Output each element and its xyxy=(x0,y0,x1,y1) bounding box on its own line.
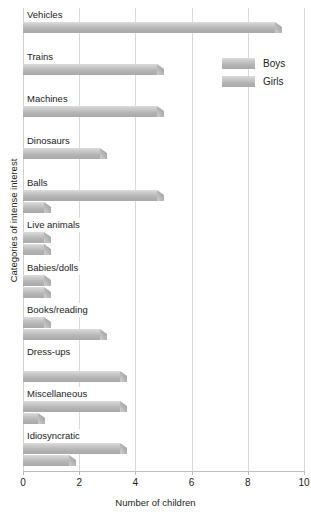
bar-slot-boys xyxy=(23,106,304,117)
chart-row: Idiosyncratic xyxy=(23,429,304,471)
legend-item-boys: Boys xyxy=(222,58,285,69)
bar-tip xyxy=(44,317,51,328)
category-label: Dress-ups xyxy=(25,345,73,359)
bar-boys xyxy=(23,401,127,412)
bar-slot-boys xyxy=(23,148,304,159)
bar-boys xyxy=(23,106,164,117)
x-tick-0 xyxy=(23,471,24,475)
bar-tip xyxy=(275,22,282,33)
x-tick-label-6: 6 xyxy=(189,477,195,488)
chart-row: Machines xyxy=(23,92,304,134)
bar-girls xyxy=(23,202,51,213)
bar-girls xyxy=(23,287,51,298)
bar-slot-girls xyxy=(23,244,304,255)
bar-tip xyxy=(120,401,127,412)
bar-tip xyxy=(100,329,107,340)
legend-label: Boys xyxy=(263,58,285,69)
bar-tip xyxy=(157,106,164,117)
bar-group xyxy=(23,148,304,172)
chart-row: Books/reading xyxy=(23,303,304,345)
bar-tip xyxy=(69,455,76,466)
x-tick-label-0: 0 xyxy=(20,477,26,488)
bar-group xyxy=(23,190,304,214)
bar-girls xyxy=(23,413,45,424)
category-label: Balls xyxy=(25,176,51,190)
category-label: Trains xyxy=(25,50,56,64)
bar-slot-girls xyxy=(23,455,304,466)
bar-boys xyxy=(23,148,107,159)
x-tick-4 xyxy=(135,471,136,475)
bar-tip xyxy=(44,287,51,298)
y-axis-label: Categories of intense interest xyxy=(8,126,19,316)
category-label: Babies/dolls xyxy=(25,261,81,275)
bar-slot-girls xyxy=(23,413,304,424)
bar-group xyxy=(23,22,304,46)
bar-boys xyxy=(23,232,51,243)
bar-group xyxy=(23,106,304,130)
bar-slot-boys xyxy=(23,275,304,286)
bar-tip xyxy=(44,202,51,213)
bar-slot-boys xyxy=(23,232,304,243)
bar-slot-boys xyxy=(23,317,304,328)
bar-slot-boys xyxy=(23,190,304,201)
bar-girls xyxy=(23,329,107,340)
bar-tip xyxy=(120,443,127,454)
bar-group xyxy=(23,359,304,383)
x-tick-8 xyxy=(248,471,249,475)
bar-slot-boys xyxy=(23,443,304,454)
legend-swatch-boys xyxy=(222,58,255,69)
bar-tip xyxy=(44,244,51,255)
bar-boys xyxy=(23,190,164,201)
bar-slot-girls xyxy=(23,287,304,298)
bar-tip xyxy=(120,371,127,382)
bar-tip xyxy=(44,275,51,286)
bar-group xyxy=(23,232,304,256)
bar-boys xyxy=(23,317,51,328)
x-tick-label-10: 10 xyxy=(298,477,309,488)
bar-tip xyxy=(100,148,107,159)
category-label: Books/reading xyxy=(25,303,91,317)
bar-slot-girls xyxy=(23,118,304,129)
bar-slot-boys xyxy=(23,401,304,412)
chart-row: Dress-ups xyxy=(23,345,304,387)
category-label: Vehicles xyxy=(25,8,65,22)
bar-slot-girls xyxy=(23,160,304,171)
chart-row: Live animals xyxy=(23,218,304,260)
bar-slot-girls xyxy=(23,371,304,382)
legend-swatch-girls xyxy=(222,76,255,87)
chart-row: Miscellaneous xyxy=(23,387,304,429)
bar-group xyxy=(23,443,304,467)
bar-slot-boys xyxy=(23,359,304,370)
category-label: Miscellaneous xyxy=(25,387,90,401)
bar-girls xyxy=(23,455,76,466)
x-tick-6 xyxy=(192,471,193,475)
bar-group xyxy=(23,275,304,299)
legend-label: Girls xyxy=(263,76,284,87)
bar-slot-girls xyxy=(23,329,304,340)
x-tick-label-2: 2 xyxy=(76,477,82,488)
x-tick-label-8: 8 xyxy=(245,477,251,488)
category-label: Machines xyxy=(25,92,71,106)
chart-row: Dinosaurs xyxy=(23,134,304,176)
bar-group xyxy=(23,401,304,425)
category-label: Dinosaurs xyxy=(25,134,73,148)
gridline-10 xyxy=(304,8,305,471)
chart-legend: BoysGirls xyxy=(222,58,285,94)
bar-boys xyxy=(23,64,164,75)
bar-slot-girls xyxy=(23,202,304,213)
bar-boys xyxy=(23,275,51,286)
bar-tip xyxy=(157,64,164,75)
bar-tip xyxy=(44,232,51,243)
chart-row: Babies/dolls xyxy=(23,261,304,303)
chart-row: Vehicles xyxy=(23,8,304,50)
bar-slot-boys xyxy=(23,22,304,33)
bar-girls xyxy=(23,244,51,255)
x-tick-label-4: 4 xyxy=(133,477,139,488)
bar-chart: VehiclesTrainsMachinesDinosaursBallsLive… xyxy=(0,0,311,521)
legend-item-girls: Girls xyxy=(222,76,285,87)
bar-tip xyxy=(157,190,164,201)
bar-tip xyxy=(38,413,45,424)
bar-slot-girls xyxy=(23,34,304,45)
bar-boys xyxy=(23,443,127,454)
category-label: Live animals xyxy=(25,218,83,232)
